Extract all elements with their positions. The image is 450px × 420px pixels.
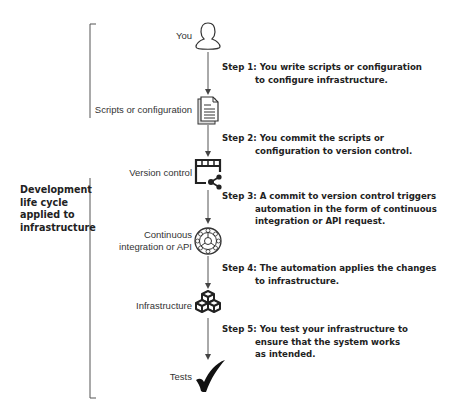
step-heading: Step 1: <box>222 61 257 74</box>
step-text: A commit to version control triggers <box>260 190 436 203</box>
lifecycle-label-line: applied to <box>20 209 96 222</box>
node-label-scripts: Scripts or configuration <box>95 104 192 116</box>
lifecycle-label: Development life cycle applied to infras… <box>20 184 96 234</box>
step-3: Step 3: A commit to version control trig… <box>222 190 437 228</box>
step-text: integration or API request. <box>222 215 437 228</box>
document-icon <box>197 96 221 126</box>
node-label-line: Continuous <box>119 229 192 241</box>
node-label-you: You <box>176 30 192 42</box>
lifecycle-label-line: infrastructure <box>20 222 96 235</box>
step-text: to configure infrastructure. <box>222 74 422 87</box>
ci-wheel-icon <box>194 226 222 256</box>
node-label-ci: Continuous integration or API <box>119 229 192 253</box>
step-text: You test your infrastructure to <box>260 323 408 336</box>
checkmark-icon <box>195 360 227 394</box>
step-text: to infrastructure. <box>222 275 436 288</box>
step-heading: Step 2: <box>222 132 257 145</box>
version-control-icon <box>194 158 224 190</box>
step-heading: Step 5: <box>222 323 257 336</box>
step-1: Step 1: You write scripts or configurati… <box>222 61 422 86</box>
step-text: You commit the scripts or <box>260 132 384 145</box>
node-label-version-control: Version control <box>129 167 192 179</box>
step-heading: Step 4: <box>222 262 257 275</box>
step-text: as intended. <box>222 348 408 361</box>
step-text: You write scripts or configuration <box>260 61 422 74</box>
cubes-icon <box>194 289 222 319</box>
node-label-infrastructure: Infrastructure <box>136 300 192 312</box>
step-text: configuration to version control. <box>222 145 412 158</box>
node-label-tests: Tests <box>170 371 192 383</box>
step-5: Step 5: You test your infrastructure to … <box>222 323 408 361</box>
lifecycle-label-line: life cycle <box>20 197 96 210</box>
step-text: automation in the form of continuous <box>222 203 437 216</box>
node-label-line: integration or API <box>119 241 192 253</box>
step-heading: Step 3: <box>222 190 257 203</box>
person-icon <box>195 22 221 52</box>
step-4: Step 4: The automation applies the chang… <box>222 262 436 287</box>
step-2: Step 2: You commit the scripts or config… <box>222 132 412 157</box>
lifecycle-label-line: Development <box>20 184 96 197</box>
step-text: The automation applies the changes <box>260 262 437 275</box>
step-text: ensure that the system works <box>222 336 408 349</box>
